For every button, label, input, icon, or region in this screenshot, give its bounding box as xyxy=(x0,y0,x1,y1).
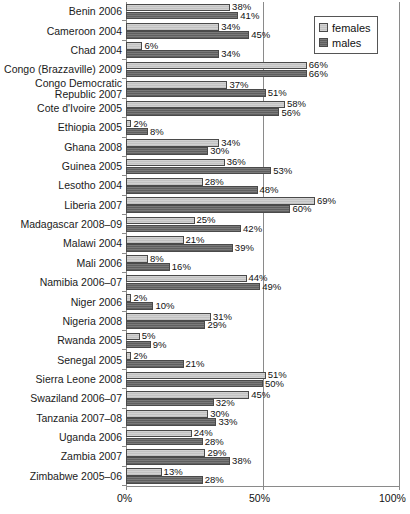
bar-males xyxy=(126,12,238,20)
bar-value-males: 9% xyxy=(153,340,167,350)
bar-row: Ethiopia 20052%8% xyxy=(0,118,410,137)
bar-females xyxy=(126,430,192,438)
category-label: Chad 2004 xyxy=(0,41,122,60)
bar-females xyxy=(126,139,219,147)
x-axis-tick-50 xyxy=(263,486,264,490)
bar-females xyxy=(126,333,140,341)
bar-row: Lesotho 200428%48% xyxy=(0,176,410,195)
legend-swatch-males-icon xyxy=(319,38,328,47)
bar-females xyxy=(126,255,148,263)
bar-group: 34%30% xyxy=(126,138,400,157)
bar-females xyxy=(126,313,211,321)
bar-males xyxy=(126,341,151,349)
bar-row: Guinea 200536%53% xyxy=(0,157,410,176)
bar-females xyxy=(126,217,195,225)
bar-group: 2%21% xyxy=(126,350,400,369)
bar-value-males: 21% xyxy=(186,359,205,369)
bar-males xyxy=(126,380,263,388)
legend-item-females: females xyxy=(319,20,371,35)
bar-value-males: 16% xyxy=(172,262,191,272)
bar-males xyxy=(126,50,219,58)
bar-row: Rwanda 20055%9% xyxy=(0,331,410,350)
bar-value-females: 2% xyxy=(133,351,147,361)
bar-females xyxy=(126,294,131,302)
bar-females xyxy=(126,410,208,418)
bar-value-males: 48% xyxy=(260,185,279,195)
bar-males xyxy=(126,476,203,484)
bar-males xyxy=(126,89,266,97)
bar-females xyxy=(126,42,142,50)
bar-value-females: 6% xyxy=(144,41,158,51)
bar-value-males: 49% xyxy=(262,282,281,292)
bar-males xyxy=(126,186,258,194)
bar-group: 25%42% xyxy=(126,215,400,234)
category-label: Namibia 2006–07 xyxy=(0,273,122,292)
bar-value-females: 69% xyxy=(317,196,336,206)
bar-value-females: 2% xyxy=(133,293,147,303)
bar-value-males: 41% xyxy=(240,11,259,21)
grouped-bar-chart: Benin 200638%41%Cameroon 200434%45%Chad … xyxy=(0,0,410,514)
bar-females xyxy=(126,352,131,360)
bar-females xyxy=(126,468,162,476)
category-label: Senegal 2005 xyxy=(0,350,122,369)
bar-row: Congo Democratic Republic 200737%51% xyxy=(0,79,410,98)
bar-males xyxy=(126,205,290,213)
bar-females xyxy=(126,372,266,380)
bar-females xyxy=(126,178,203,186)
bar-females xyxy=(126,120,131,128)
bar-males xyxy=(126,283,260,291)
category-label: Nigeria 2008 xyxy=(0,312,122,331)
category-label: Niger 2006 xyxy=(0,292,122,311)
category-label: Sierra Leone 2008 xyxy=(0,370,122,389)
bar-group: 2%10% xyxy=(126,292,400,311)
bar-value-males: 30% xyxy=(210,146,229,156)
bar-value-females: 25% xyxy=(197,215,216,225)
category-label: Zambia 2007 xyxy=(0,447,122,466)
bar-value-males: 28% xyxy=(205,437,224,447)
bar-females xyxy=(126,4,230,12)
bar-males xyxy=(126,70,307,78)
bar-group: 36%53% xyxy=(126,157,400,176)
bar-males xyxy=(126,399,214,407)
bar-value-males: 33% xyxy=(218,417,237,427)
bar-group: 58%56% xyxy=(126,99,400,118)
bar-females xyxy=(126,101,285,109)
category-label: Tanzania 2007–08 xyxy=(0,409,122,428)
bar-males xyxy=(126,302,153,310)
category-label: Malawi 2004 xyxy=(0,234,122,253)
bar-group: 28%48% xyxy=(126,176,400,195)
bar-value-males: 34% xyxy=(221,49,240,59)
bar-row: Zambia 200729%38% xyxy=(0,447,410,466)
bar-females xyxy=(126,62,307,70)
bar-females xyxy=(126,159,225,167)
bar-value-males: 53% xyxy=(273,166,292,176)
bar-row: Niger 20062%10% xyxy=(0,292,410,311)
bar-value-females: 2% xyxy=(133,119,147,129)
bar-row: Malawi 200421%39% xyxy=(0,234,410,253)
bar-group: 21%39% xyxy=(126,234,400,253)
x-axis-tick-0 xyxy=(126,486,127,490)
bar-row: Tanzania 2007–0830%33% xyxy=(0,409,410,428)
legend-label-females: females xyxy=(332,22,371,34)
bar-group: 44%49% xyxy=(126,273,400,292)
bar-value-males: 60% xyxy=(292,204,311,214)
x-axis-label-0: 0% xyxy=(117,492,132,505)
bar-females xyxy=(126,275,247,283)
category-label: Lesotho 2004 xyxy=(0,176,122,195)
bar-row: Mali 20068%16% xyxy=(0,254,410,273)
bar-value-females: 8% xyxy=(150,254,164,264)
bar-row: Senegal 20052%21% xyxy=(0,350,410,369)
bar-value-males: 39% xyxy=(235,243,254,253)
bar-value-males: 56% xyxy=(281,108,300,118)
bar-value-males: 50% xyxy=(265,379,284,389)
bar-group: 2%8% xyxy=(126,118,400,137)
bar-value-males: 8% xyxy=(150,127,164,137)
bar-group: 69%60% xyxy=(126,196,400,215)
bar-value-females: 45% xyxy=(251,390,270,400)
bar-value-males: 32% xyxy=(216,398,235,408)
bar-row: Zimbabwe 2005–0613%28% xyxy=(0,467,410,486)
bar-males xyxy=(126,418,216,426)
chart-legend: females males xyxy=(314,16,378,54)
bar-group: 51%50% xyxy=(126,370,400,389)
category-label: Ethiopia 2005 xyxy=(0,118,122,137)
